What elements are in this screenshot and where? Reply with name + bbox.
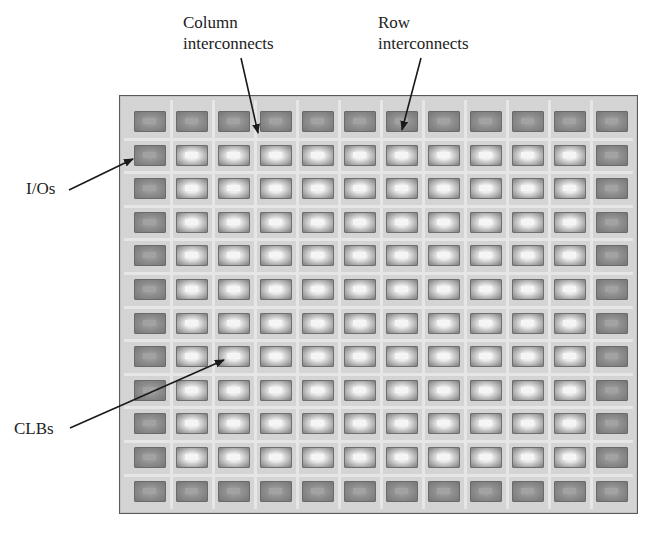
block-core (311, 387, 324, 393)
row-interconnect (124, 171, 633, 174)
block-core (395, 454, 408, 460)
clb-block (344, 245, 376, 266)
io-block (134, 447, 166, 468)
clb-block (260, 178, 292, 199)
column-interconnect (338, 100, 341, 509)
row-interconnect (124, 238, 633, 241)
clb-block (470, 279, 502, 300)
block-core (563, 320, 576, 326)
clb-block (176, 178, 208, 199)
block-core (353, 152, 366, 158)
block-core (143, 320, 156, 326)
block-core (437, 185, 450, 191)
column-interconnect (296, 100, 299, 509)
block-core (311, 118, 324, 124)
clb-block (386, 346, 418, 367)
clb-block (512, 447, 544, 468)
block-core (395, 252, 408, 258)
clb-block (512, 380, 544, 401)
io-block (596, 178, 628, 199)
block-core (227, 252, 240, 258)
block-core (269, 219, 282, 225)
block-core (479, 420, 492, 426)
block-core (269, 387, 282, 393)
block-core (395, 488, 408, 494)
clb-block (554, 380, 586, 401)
clb-block (176, 313, 208, 334)
block-core (269, 454, 282, 460)
block-core (311, 252, 324, 258)
clb-block (344, 313, 376, 334)
clb-block (344, 145, 376, 166)
clbs-label: CLBs (14, 418, 54, 439)
clb-block (512, 145, 544, 166)
block-core (311, 488, 324, 494)
clb-block (386, 145, 418, 166)
clb-block (176, 279, 208, 300)
row-interconnect (124, 406, 633, 409)
block-core (269, 152, 282, 158)
block-core (563, 454, 576, 460)
clb-block (218, 346, 250, 367)
column-interconnects-label-line2: interconnects (183, 33, 274, 54)
clb-block (260, 413, 292, 434)
clb-block (470, 380, 502, 401)
clb-block (344, 346, 376, 367)
block-core (311, 286, 324, 292)
block-core (227, 488, 240, 494)
clb-block (512, 245, 544, 266)
column-interconnects-label-line1: Column (183, 12, 274, 33)
block-core (395, 152, 408, 158)
clb-block (218, 212, 250, 233)
clb-block (302, 413, 334, 434)
clb-block (176, 346, 208, 367)
block-core (437, 118, 450, 124)
io-block (218, 481, 250, 502)
clb-block (554, 212, 586, 233)
fpga-board (119, 95, 638, 514)
io-block (386, 111, 418, 132)
clb-block (260, 212, 292, 233)
io-block (134, 145, 166, 166)
block-core (437, 286, 450, 292)
block-core (269, 286, 282, 292)
block-core (437, 387, 450, 393)
clb-block (260, 313, 292, 334)
clb-block (176, 413, 208, 434)
clb-block (302, 145, 334, 166)
block-core (521, 252, 534, 258)
block-core (353, 353, 366, 359)
block-core (269, 320, 282, 326)
clb-block (218, 313, 250, 334)
clb-block (302, 245, 334, 266)
block-core (353, 185, 366, 191)
block-core (227, 387, 240, 393)
clb-block (260, 447, 292, 468)
block-core (521, 118, 534, 124)
clb-block (470, 313, 502, 334)
io-block (554, 111, 586, 132)
io-block (134, 380, 166, 401)
block-core (605, 185, 618, 191)
clb-block (176, 145, 208, 166)
io-block (302, 481, 334, 502)
block-core (521, 219, 534, 225)
block-core (563, 353, 576, 359)
clb-block (218, 380, 250, 401)
block-core (353, 320, 366, 326)
block-core (521, 488, 534, 494)
clb-block (428, 245, 460, 266)
clb-block (512, 413, 544, 434)
block-core (521, 387, 534, 393)
io-block (386, 481, 418, 502)
block-core (521, 353, 534, 359)
block-core (563, 286, 576, 292)
block-core (227, 454, 240, 460)
clb-block (344, 279, 376, 300)
clb-block (218, 178, 250, 199)
block-core (311, 152, 324, 158)
clb-block (176, 380, 208, 401)
io-block (512, 111, 544, 132)
clb-block (554, 313, 586, 334)
clb-block (512, 346, 544, 367)
